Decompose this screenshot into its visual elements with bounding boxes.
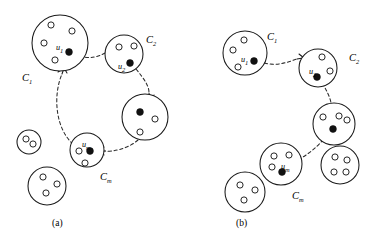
cluster-label-b-C1-text: C bbox=[267, 31, 274, 42]
cluster-label-a-C1-text: C bbox=[22, 72, 29, 83]
cluster-label-a-Cm-text: C bbox=[100, 171, 107, 182]
cluster-label-b-C2: C2 bbox=[349, 53, 359, 66]
cluster-label-a-C1-subscript: 1 bbox=[29, 78, 32, 85]
node-label-a-C2-subscript: 2 bbox=[122, 66, 125, 73]
cluster-label-a-C2: C2 bbox=[146, 35, 156, 48]
cluster-label-a-Cm: Cm bbox=[100, 172, 112, 185]
cluster-label-b-C2-subscript: 2 bbox=[356, 58, 359, 65]
cluster-label-b-Cm-text: C bbox=[292, 190, 299, 201]
figure-container: u1C1u2C2umCm(a)u1C1u2C2umCm(b) bbox=[0, 0, 371, 236]
node-label-b-C2-subscript: 2 bbox=[313, 71, 316, 78]
cluster-label-b-Cm-subscript: m bbox=[299, 196, 304, 203]
node-label-b-C1: u1 bbox=[241, 56, 248, 66]
cluster-label-b-C2-text: C bbox=[349, 52, 356, 63]
panel-caption-a: (a) bbox=[52, 218, 63, 228]
node-label-a-C2: u2 bbox=[118, 63, 125, 73]
cluster-label-a-C1: C1 bbox=[22, 73, 32, 86]
cluster-label-b-C1-subscript: 1 bbox=[274, 37, 277, 44]
panel-caption-b: (b) bbox=[236, 218, 247, 228]
node-label-a-C1: u1 bbox=[56, 44, 63, 54]
label-layer: u1C1u2C2umCm(a)u1C1u2C2umCm(b) bbox=[0, 0, 371, 236]
node-label-b-Cm-subscript: m bbox=[285, 166, 290, 173]
cluster-label-b-Cm: Cm bbox=[292, 191, 304, 204]
node-label-a-C1-subscript: 1 bbox=[60, 47, 63, 54]
cluster-label-a-C2-text: C bbox=[146, 34, 153, 45]
node-label-a-Cm: um bbox=[82, 141, 91, 151]
node-label-b-C1-subscript: 1 bbox=[245, 59, 248, 66]
node-label-b-Cm: um bbox=[281, 163, 290, 173]
node-label-b-C2: u2 bbox=[309, 68, 316, 78]
cluster-label-a-C2-subscript: 2 bbox=[153, 40, 156, 47]
cluster-label-a-Cm-subscript: m bbox=[107, 177, 112, 184]
node-label-a-Cm-subscript: m bbox=[86, 144, 91, 151]
cluster-label-b-C1: C1 bbox=[267, 32, 277, 45]
